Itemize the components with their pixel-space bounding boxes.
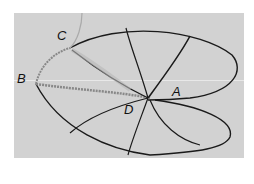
label-a: A <box>172 85 181 98</box>
label-d: D <box>124 103 133 116</box>
label-c: C <box>57 29 66 42</box>
leaf-drawing <box>0 0 254 184</box>
label-b: B <box>17 72 26 85</box>
